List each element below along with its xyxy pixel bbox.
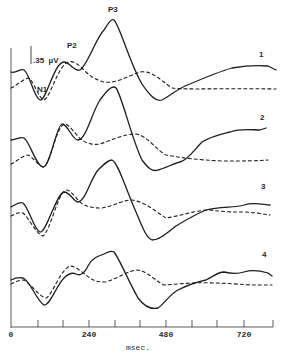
- trace-4-solid: [11, 251, 272, 308]
- trace-2-label: 2: [260, 113, 264, 122]
- x-tick-720: 720: [237, 330, 251, 339]
- trace-3-label: 3: [261, 182, 265, 191]
- trace-1-label: 1: [259, 50, 263, 59]
- scale-label: .35 µV: [33, 56, 59, 65]
- erp-waveform-chart: [0, 0, 284, 361]
- trace-4-dashed: [11, 266, 272, 298]
- x-axis: [11, 320, 273, 327]
- trace-3-dashed: [11, 190, 270, 236]
- trace-3-solid: [11, 160, 270, 240]
- x-tick-240: 240: [82, 330, 96, 339]
- x-tick-0: 0: [9, 330, 14, 339]
- x-axis-label: msec.: [126, 343, 150, 352]
- p2-label: P2: [67, 41, 77, 50]
- trace-4-label: 4: [262, 250, 266, 259]
- n1-label: N1: [37, 85, 47, 94]
- x-tick-480: 480: [159, 330, 173, 339]
- p3-label: P3: [108, 5, 118, 14]
- trace-2-dashed: [11, 124, 268, 167]
